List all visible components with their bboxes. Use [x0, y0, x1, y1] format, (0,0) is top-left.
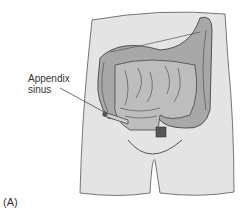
- appendix-sinus-label: Appendix sinus: [28, 73, 70, 95]
- abdomen-illustration: [0, 0, 243, 218]
- label-line-2: sinus: [28, 84, 70, 95]
- panel-label: (A): [3, 197, 18, 208]
- rectum: [156, 127, 166, 137]
- appendix-sinus-opening: [102, 111, 107, 116]
- label-line-1: Appendix: [28, 73, 70, 84]
